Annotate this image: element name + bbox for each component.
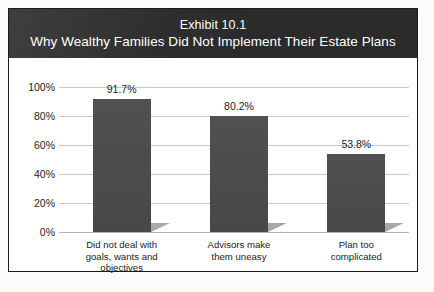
scanned-page-background: Exhibit 10.1 Why Wealthy Families Did No… xyxy=(0,0,434,292)
y-axis-tick-label: 20% xyxy=(15,197,55,209)
exhibit-figure-frame: Exhibit 10.1 Why Wealthy Families Did No… xyxy=(8,8,418,272)
bar-value-label: 53.8% xyxy=(341,138,371,150)
y-axis-tick-labels: 0%20%40%60%80%100% xyxy=(15,58,55,271)
y-axis-tick-label: 0% xyxy=(15,226,55,238)
bar xyxy=(327,154,385,232)
bar xyxy=(93,99,151,232)
y-axis-tick-label: 80% xyxy=(15,110,55,122)
chart-plot-area: 0%20%40%60%80%100% 91.7%Did not deal wit… xyxy=(9,58,417,271)
x-axis-baseline xyxy=(59,232,409,233)
exhibit-number-title: Exhibit 10.1 xyxy=(180,17,247,33)
exhibit-subtitle: Why Wealthy Families Did Not Implement T… xyxy=(30,33,395,51)
bar-shadow xyxy=(268,223,287,232)
bar-shadow xyxy=(151,223,170,232)
y-axis-tick-label: 100% xyxy=(15,81,55,93)
y-axis-tick-label: 60% xyxy=(15,139,55,151)
bar xyxy=(210,116,268,232)
exhibit-title-banner: Exhibit 10.1 Why Wealthy Families Did No… xyxy=(9,9,417,58)
bar-shadow xyxy=(385,223,404,232)
bar-value-label: 80.2% xyxy=(224,100,254,112)
chart-gridlines-and-bars: 91.7%Did not deal with goals, wants and … xyxy=(59,58,409,271)
x-axis-category-label: Plan too complicated xyxy=(288,239,425,262)
y-axis-tick-label: 40% xyxy=(15,168,55,180)
bar-value-label: 91.7% xyxy=(107,83,137,95)
